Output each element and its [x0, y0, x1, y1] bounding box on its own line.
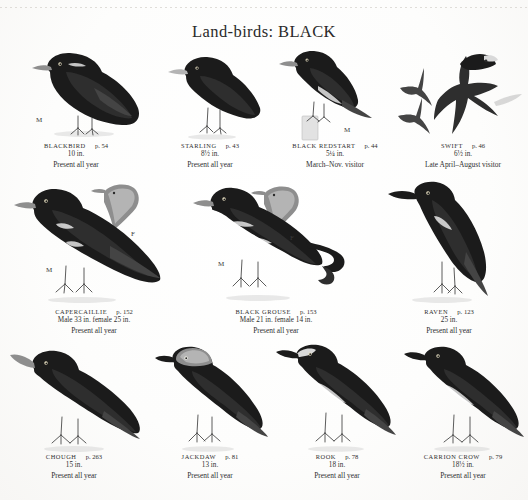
caption-status: Present all year [398, 471, 528, 480]
caption-species-name: SWIFT [441, 142, 463, 149]
caption-size: 13 in. [146, 461, 274, 470]
caption-size: 10 in. [6, 150, 146, 159]
sex-label-female: F [131, 230, 135, 238]
bird-entry-capercaillie[interactable]: CAPERCAILLIE p. 152 Male 33 in. female 2… [4, 180, 184, 344]
caption-capercaillie: CAPERCAILLIE p. 152 Male 33 in. female 2… [4, 308, 184, 335]
caption-status: Present all year [150, 160, 270, 169]
caption-species-name: BLACK GROUSE [235, 308, 290, 315]
plate-page: Land-birds: BLACK [0, 0, 528, 500]
caption-starling: STARLING p. 43 8½ in. Present all year [150, 142, 270, 169]
caption-page-ref: p. 81 [218, 453, 238, 460]
bird-entry-chough[interactable]: CHOUGH p. 263 15 in. Present all year [4, 345, 144, 495]
starling-illustration [150, 42, 270, 142]
caption-name-line: SWIFT p. 46 [398, 142, 528, 150]
capercaillie-illustration [4, 180, 184, 308]
sex-label-male: M [218, 260, 225, 268]
caption-swift: SWIFT p. 46 6½ in. Late April–August vis… [398, 142, 528, 169]
page-edge-rule [0, 7, 528, 8]
plate-row-2: CAPERCAILLIE p. 152 Male 33 in. female 2… [0, 180, 528, 344]
caption-species-name: CHOUGH [46, 453, 77, 460]
caption-page-ref: p. 43 [219, 142, 239, 149]
swift-illustration [398, 42, 528, 142]
rook-illustration [272, 345, 402, 453]
caption-page-ref: p. 153 [293, 308, 316, 315]
caption-name-line: CHOUGH p. 263 [4, 453, 144, 461]
black-redstart-illustration [272, 42, 398, 142]
caption-species-name: CARRION CROW [424, 453, 480, 460]
caption-species-name: ROOK [316, 453, 336, 460]
bird-entry-swift[interactable]: SWIFT p. 46 6½ in. Late April–August vis… [398, 42, 528, 174]
carrion-crow-illustration [398, 345, 528, 453]
blackbird-illustration [6, 42, 146, 142]
caption-page-ref: p. 46 [465, 142, 485, 149]
sex-label-female: F [290, 234, 294, 242]
bird-entry-blackbird[interactable]: BLACKBIRD p. 54 10 in. Present all year … [6, 42, 146, 174]
bird-entry-jackdaw[interactable]: JACKDAW p. 81 13 in. Present all year [146, 345, 274, 495]
caption-page-ref: p. 152 [109, 308, 132, 315]
caption-page-ref: p. 44 [357, 142, 377, 149]
caption-species-name: BLACKBIRD [44, 142, 86, 149]
jackdaw-illustration [146, 345, 274, 453]
caption-page-ref: p. 263 [79, 453, 102, 460]
caption-status: Present all year [4, 326, 184, 335]
sex-label-male: M [36, 116, 43, 124]
bird-entry-rook[interactable]: ROOK p. 78 18 in. Present all year [272, 345, 402, 495]
page-title: Land-birds: BLACK [0, 22, 528, 42]
bird-entry-black-redstart[interactable]: BLACK REDSTART p. 44 5¼ in. March–Nov. v… [272, 42, 398, 174]
caption-name-line: STARLING p. 43 [150, 142, 270, 150]
caption-size: Male 33 in. female 25 in. [4, 316, 184, 325]
caption-status: Present all year [146, 471, 274, 480]
plate-row-1: BLACKBIRD p. 54 10 in. Present all year … [0, 42, 528, 174]
caption-page-ref: p. 78 [338, 453, 358, 460]
caption-species-name: BLACK REDSTART [292, 142, 355, 149]
caption-status: Present all year [272, 471, 402, 480]
caption-status: Present all year [370, 326, 528, 335]
caption-size: 6½ in. [398, 150, 528, 159]
caption-name-line: CARRION CROW p. 79 [398, 453, 528, 461]
bird-entry-starling[interactable]: STARLING p. 43 8½ in. Present all year [150, 42, 270, 174]
caption-raven: RAVEN p. 123 25 in. Present all year [370, 308, 528, 335]
caption-name-line: CAPERCAILLIE p. 152 [4, 308, 184, 316]
bird-entry-carrion-crow[interactable]: CARRION CROW p. 79 18½ in. Present all y… [398, 345, 528, 495]
caption-size: Male 21 in. female 14 in. [186, 316, 366, 325]
caption-name-line: JACKDAW p. 81 [146, 453, 274, 461]
caption-name-line: RAVEN p. 123 [370, 308, 528, 316]
caption-size: 15 in. [4, 461, 144, 470]
sex-label-male: M [344, 126, 351, 134]
caption-name-line: BLACKBIRD p. 54 [6, 142, 146, 150]
caption-status: March–Nov. visitor [272, 160, 398, 169]
caption-black-redstart: BLACK REDSTART p. 44 5¼ in. March–Nov. v… [272, 142, 398, 169]
caption-size: 5¼ in. [272, 150, 398, 159]
black-grouse-illustration [186, 180, 366, 308]
caption-species-name: CAPERCAILLIE [55, 308, 107, 315]
caption-chough: CHOUGH p. 263 15 in. Present all year [4, 453, 144, 480]
bird-entry-black-grouse[interactable]: BLACK GROUSE p. 153 Male 21 in. female 1… [186, 180, 366, 344]
bird-entry-raven[interactable]: RAVEN p. 123 25 in. Present all year [370, 180, 528, 344]
caption-black-grouse: BLACK GROUSE p. 153 Male 21 in. female 1… [186, 308, 366, 335]
caption-species-name: STARLING [181, 142, 217, 149]
caption-page-ref: p. 123 [450, 308, 473, 315]
caption-rook: ROOK p. 78 18 in. Present all year [272, 453, 402, 480]
caption-name-line: BLACK REDSTART p. 44 [272, 142, 398, 150]
caption-status: Present all year [186, 326, 366, 335]
caption-page-ref: p. 79 [482, 453, 502, 460]
chough-illustration [4, 345, 144, 453]
caption-status: Present all year [4, 471, 144, 480]
plate-row-3: CHOUGH p. 263 15 in. Present all year [0, 345, 528, 495]
sex-label-male: M [46, 266, 53, 274]
raven-illustration [370, 180, 528, 308]
caption-status: Late April–August visitor [398, 160, 528, 169]
caption-name-line: BLACK GROUSE p. 153 [186, 308, 366, 316]
caption-species-name: JACKDAW [182, 453, 216, 460]
caption-blackbird: BLACKBIRD p. 54 10 in. Present all year [6, 142, 146, 169]
caption-species-name: RAVEN [424, 308, 448, 315]
caption-size: 25 in. [370, 316, 528, 325]
caption-status: Present all year [6, 160, 146, 169]
caption-jackdaw: JACKDAW p. 81 13 in. Present all year [146, 453, 274, 480]
caption-carrion-crow: CARRION CROW p. 79 18½ in. Present all y… [398, 453, 528, 480]
caption-size: 18½ in. [398, 461, 528, 470]
caption-page-ref: p. 54 [88, 142, 108, 149]
caption-name-line: ROOK p. 78 [272, 453, 402, 461]
caption-size: 8½ in. [150, 150, 270, 159]
caption-size: 18 in. [272, 461, 402, 470]
